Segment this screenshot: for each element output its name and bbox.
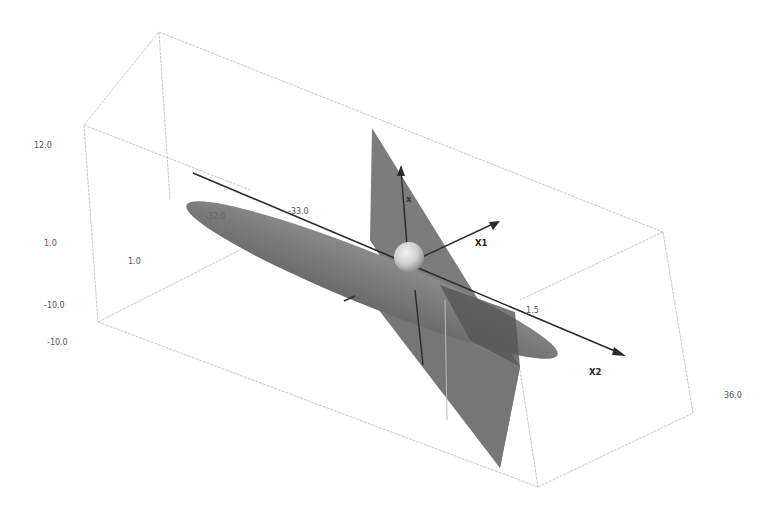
box-edge <box>538 413 693 487</box>
tick-label: -33.0 <box>288 207 309 216</box>
box-edge <box>520 370 538 487</box>
tick-label: 12.0 <box>34 141 52 150</box>
figure-canvas: X1 X2 x 12.0 1.0 -10.0 -10.0 1.0 -32.0 -… <box>0 0 778 510</box>
box-edge <box>520 232 663 300</box>
box-edge <box>98 250 240 322</box>
tick-label: 36.0 <box>724 391 742 400</box>
box-edge <box>159 32 170 200</box>
tick-label: 1.0 <box>128 257 141 266</box>
box-edge <box>84 125 98 322</box>
tick-label: -10.0 <box>47 338 68 347</box>
x2-arrowhead <box>612 347 626 356</box>
tick-label: 1.5 <box>526 306 539 315</box>
x2-label: X2 <box>589 367 602 377</box>
box-edge <box>663 232 693 413</box>
tick-label: 1.0 <box>44 239 57 248</box>
origin-sphere <box>394 242 424 272</box>
x3-label: x <box>406 194 412 204</box>
tick-label: -32.0 <box>205 212 226 221</box>
box-edge <box>84 32 159 125</box>
box-edge <box>84 125 250 190</box>
x1-label: X1 <box>475 238 488 248</box>
tick-label: -10.0 <box>44 301 65 310</box>
